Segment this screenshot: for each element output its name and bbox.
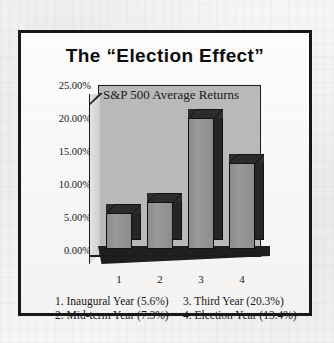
page-title: The “Election Effect” — [21, 45, 309, 67]
bar-3-front-face — [188, 118, 214, 249]
x-axis-tick-1: 1 — [116, 273, 122, 285]
y-axis-tick-15: 15.00% — [31, 146, 91, 157]
bar-1-top-face — [106, 204, 141, 213]
x-axis-tick-2: 2 — [157, 273, 163, 285]
legend-item-4: 4. Election Year (13.4%) — [183, 309, 305, 321]
y-axis-tick-0: 0.00% — [31, 245, 91, 256]
bar-1-front-face — [106, 213, 132, 249]
bar-1[interactable] — [106, 213, 132, 249]
bar-3-side-face — [214, 109, 223, 240]
y-axis-tick-10: 10.00% — [31, 179, 91, 190]
bar-4-front-face — [229, 163, 255, 249]
bar-4[interactable] — [229, 163, 255, 249]
figure-border-box: The “Election Effect” 25.00% 20.00% 15.0… — [18, 30, 312, 316]
plot-left-wall — [89, 94, 100, 264]
bar-4-top-face — [229, 154, 264, 163]
bar-3[interactable] — [188, 118, 214, 249]
y-axis-tick-20: 20.00% — [31, 113, 91, 124]
bar-2-front-face — [147, 202, 173, 249]
legend-item-2: 2. Mid-term Year (7.3%) — [55, 309, 183, 321]
plot-floor-front-edge — [89, 255, 261, 257]
y-axis-tick-25: 25.00% — [31, 80, 91, 91]
bar-3-top-face — [188, 109, 223, 118]
x-axis-tick-3: 3 — [198, 273, 204, 285]
y-axis-tick-5: 5.00% — [31, 212, 91, 223]
bar-2[interactable] — [147, 202, 173, 249]
plot-subtitle: S&P 500 Average Returns — [103, 87, 239, 103]
x-axis-tick-4: 4 — [239, 273, 245, 285]
legend: 1. Inaugural Year (5.6%) 3. Third Year (… — [55, 295, 305, 321]
bar-2-top-face — [147, 193, 182, 202]
bar-4-side-face — [255, 154, 264, 240]
legend-item-3: 3. Third Year (20.3%) — [183, 295, 305, 307]
chart-area: 25.00% 20.00% 15.00% 10.00% 5.00% 0.00% … — [21, 73, 309, 319]
plot-3d: S&P 500 Average Returns — [89, 85, 261, 267]
legend-item-1: 1. Inaugural Year (5.6%) — [55, 295, 183, 307]
